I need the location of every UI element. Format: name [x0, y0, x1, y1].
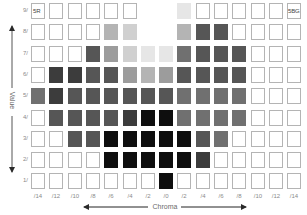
value-tick: 1/ — [16, 177, 28, 183]
grid-cell — [214, 152, 228, 168]
hue-label-5bg: 5BG — [288, 8, 299, 14]
grid-cell — [214, 131, 228, 147]
grid-cell — [232, 88, 246, 104]
grid-cell — [251, 173, 265, 189]
grid-cell — [86, 67, 100, 83]
grid-cell — [232, 67, 246, 83]
grid-cell — [31, 173, 45, 189]
chroma-tick: /14 — [285, 193, 303, 199]
grid-cell — [123, 3, 137, 19]
value-tick: 8/ — [16, 28, 28, 34]
x-axis-title: Chroma — [150, 203, 180, 210]
grid-cell — [269, 46, 283, 62]
grid-cell — [177, 46, 191, 62]
grid-cell — [31, 88, 45, 104]
grid-cell — [141, 88, 155, 104]
grid-cell — [104, 110, 118, 126]
grid-cell — [68, 3, 82, 19]
grid-cell — [251, 46, 265, 62]
chroma-tick: /2 — [175, 193, 193, 199]
grid-cell — [269, 173, 283, 189]
grid-cell — [251, 3, 265, 19]
grid-cell — [141, 131, 155, 147]
grid-cell — [269, 24, 283, 40]
grid-cell — [49, 67, 63, 83]
value-tick: 3/ — [16, 135, 28, 141]
grid-cell — [269, 131, 283, 147]
grid-cell — [159, 46, 173, 62]
grid-cell — [196, 67, 210, 83]
grid-cell — [104, 24, 118, 40]
grid-cell — [49, 3, 63, 19]
grid-cell — [177, 131, 191, 147]
grid-cell — [49, 110, 63, 126]
grid-cell — [214, 67, 228, 83]
grid-cell — [177, 152, 191, 168]
grid-cell — [177, 67, 191, 83]
grid-cell — [104, 3, 118, 19]
grid-cell — [86, 131, 100, 147]
chroma-tick: /12 — [47, 193, 65, 199]
value-tick: 9/ — [16, 7, 28, 13]
grid-cell — [31, 152, 45, 168]
grid-cell — [141, 67, 155, 83]
grid-cell — [68, 110, 82, 126]
grid-cell — [86, 3, 100, 19]
grid-cell — [214, 110, 228, 126]
grid-cell — [31, 46, 45, 62]
chroma-tick: /4 — [194, 193, 212, 199]
grid-cell — [159, 67, 173, 83]
grid-cell — [196, 3, 210, 19]
grid-cell — [251, 131, 265, 147]
grid-cell — [287, 24, 301, 40]
grid-cell — [232, 46, 246, 62]
value-tick: 7/ — [16, 50, 28, 56]
grid-cell — [68, 131, 82, 147]
grid-cell — [196, 110, 210, 126]
grid-cell — [49, 131, 63, 147]
value-tick: 2/ — [16, 156, 28, 162]
chroma-tick: /10 — [66, 193, 84, 199]
grid-cell — [232, 110, 246, 126]
grid-cell — [214, 24, 228, 40]
grid-cell — [177, 110, 191, 126]
grid-cell: 5R — [31, 3, 45, 19]
grid-cell — [251, 152, 265, 168]
grid-cell — [123, 24, 137, 40]
grid-cell — [214, 88, 228, 104]
chroma-tick: /14 — [29, 193, 47, 199]
grid-cell — [269, 110, 283, 126]
chroma-tick: /0 — [157, 193, 175, 199]
grid-cell — [141, 110, 155, 126]
grid-cell — [159, 131, 173, 147]
grid-cell — [159, 88, 173, 104]
grid-cell — [123, 110, 137, 126]
value-tick: 4/ — [16, 114, 28, 120]
grid-cell — [86, 24, 100, 40]
grid-cell — [214, 3, 228, 19]
grid-cell — [177, 24, 191, 40]
grid-cell — [31, 67, 45, 83]
grid-cell — [251, 110, 265, 126]
chroma-tick: /8 — [84, 193, 102, 199]
grid-cell — [31, 131, 45, 147]
grid-cell — [141, 46, 155, 62]
grid-cell — [141, 152, 155, 168]
grid-cell — [251, 88, 265, 104]
value-tick: 5/ — [16, 92, 28, 98]
grid-cell — [49, 152, 63, 168]
grid-cell — [196, 131, 210, 147]
grid-cell — [177, 173, 191, 189]
grid-cell — [196, 46, 210, 62]
grid-cell — [269, 67, 283, 83]
grid-cell — [104, 152, 118, 168]
chroma-tick: /8 — [230, 193, 248, 199]
grid-cell — [68, 173, 82, 189]
grid-cell — [104, 88, 118, 104]
grid-cell — [196, 152, 210, 168]
grid-cell — [214, 46, 228, 62]
grid-cell — [68, 67, 82, 83]
grid-cell — [123, 131, 137, 147]
grid-cell — [287, 46, 301, 62]
grid-cell — [287, 173, 301, 189]
